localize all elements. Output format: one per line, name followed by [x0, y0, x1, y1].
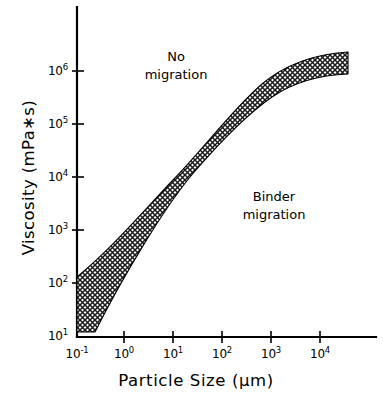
x-tick-label-1e2: 102	[198, 347, 246, 361]
annotation-no-migration-line2: migration	[126, 66, 226, 84]
x-tick-label-1e-1: 10-1	[53, 347, 101, 361]
annotation-binder-migration-line1: Binder	[222, 188, 326, 206]
x-tick-label-1e3: 103	[247, 347, 295, 361]
chart-figure: 106 105 104 103 102 101 10-1 100 101 102…	[0, 0, 392, 398]
annotation-no-migration: No migration	[126, 48, 226, 83]
y-tick-label-1e1: 101	[26, 329, 68, 343]
annotation-binder-migration-line2: migration	[222, 206, 326, 224]
x-axis-title: Particle Size (μm)	[0, 371, 392, 390]
x-tick-label-1e1: 101	[149, 347, 197, 361]
annotation-no-migration-line1: No	[126, 48, 226, 66]
x-tick-label-1e0: 100	[100, 347, 148, 361]
y-axis-title: Viscosity (mPa∗s)	[19, 58, 38, 298]
annotation-binder-migration: Binder migration	[222, 188, 326, 223]
x-tick-label-1e4: 104	[296, 347, 344, 361]
